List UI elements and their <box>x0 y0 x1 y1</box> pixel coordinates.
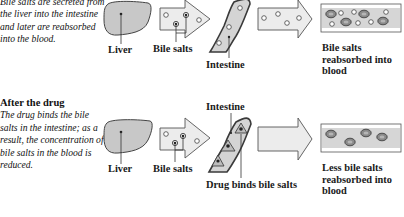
label-bile-salts-bottom: Bile salts <box>153 163 193 175</box>
label-result-bottom: Less bile salts reabsorbed into blood <box>322 162 404 197</box>
label-intestine-top: Intestine <box>206 59 245 71</box>
label-drug-binds: Drug binds bile salts <box>206 179 302 191</box>
label-liver-bottom: Liver <box>108 163 132 175</box>
label-liver-top: Liver <box>108 44 132 56</box>
liver-shape-top <box>104 1 151 35</box>
label-result-top: Bile salts reabsorbed into blood <box>322 42 404 77</box>
label-bile-salts-top: Bile salts <box>153 43 193 55</box>
liver-shape-bottom <box>104 120 152 153</box>
arrow-shape-top-1 <box>160 0 210 38</box>
arrow-shape-bottom-2 <box>258 118 312 160</box>
label-intestine-bottom: Intestine <box>206 101 245 113</box>
